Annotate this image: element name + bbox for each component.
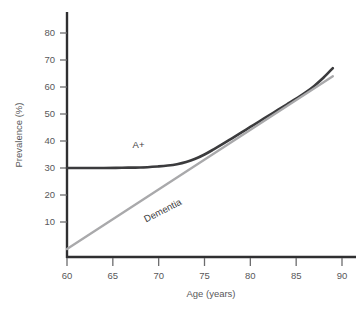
y-tick-label-80: 80	[44, 27, 55, 38]
x-tick-label-85: 85	[291, 270, 302, 281]
x-tick-label-65: 65	[108, 270, 119, 281]
x-tick-label-60: 60	[62, 270, 73, 281]
y-tick-label-10: 10	[44, 216, 55, 227]
x-axis-tick-labels: 60657075808590	[62, 270, 348, 281]
data-series-group	[67, 68, 333, 249]
x-axis-ticks	[67, 258, 342, 266]
series-line-a-	[67, 68, 333, 168]
y-tick-label-60: 60	[44, 81, 55, 92]
series-inline-labels: A+Dementia	[133, 139, 184, 225]
y-axis-title: Prevalence (%)	[13, 103, 24, 168]
y-tick-label-20: 20	[44, 189, 55, 200]
chart-figure: 1020304050607080 60657075808590 A+Dement…	[0, 0, 364, 311]
y-tick-label-40: 40	[44, 135, 55, 146]
y-tick-label-70: 70	[44, 54, 55, 65]
x-tick-label-90: 90	[337, 270, 348, 281]
chart-canvas: 1020304050607080 60657075808590 A+Dement…	[0, 0, 364, 311]
y-tick-label-50: 50	[44, 108, 55, 119]
x-tick-label-80: 80	[245, 270, 256, 281]
series-label-a-: A+	[133, 139, 145, 150]
y-tick-label-30: 30	[44, 162, 55, 173]
series-line-dementia	[67, 76, 333, 249]
series-label-dementia: Dementia	[142, 196, 184, 225]
x-tick-label-75: 75	[199, 270, 210, 281]
x-axis-title: Age (years)	[186, 288, 235, 299]
y-axis-tick-labels: 1020304050607080	[44, 27, 55, 227]
x-tick-label-70: 70	[153, 270, 164, 281]
